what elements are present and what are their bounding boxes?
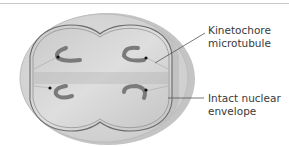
label-kinetochore-microtubule: Kinetochore microtubule [208, 24, 271, 49]
nucleus [30, 25, 179, 131]
label-line: microtubule [208, 37, 271, 50]
label-line: Intact nuclear [208, 92, 281, 105]
label-line: Kinetochore [208, 24, 271, 37]
label-line: envelope [208, 105, 281, 118]
label-intact-nuclear-envelope: Intact nuclear envelope [208, 92, 281, 117]
cell-diagram [0, 0, 289, 146]
